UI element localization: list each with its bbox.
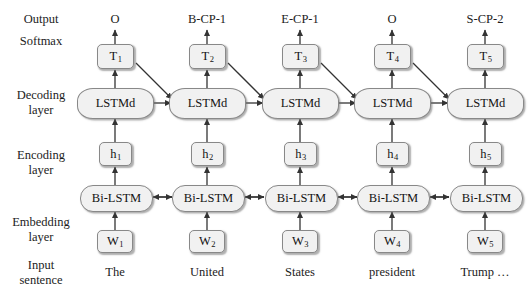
encoder-node-3-label: Bi-LSTM: [277, 191, 326, 206]
row-label-encoding-line1: Encoding: [0, 148, 82, 163]
hidden-state-node-3[interactable]: h3: [284, 142, 317, 166]
softmax-node-1[interactable]: T1: [97, 44, 134, 69]
row-label-output: Output: [0, 12, 82, 27]
hidden-state-node-4[interactable]: h4: [376, 142, 409, 166]
encoder-node-5[interactable]: Bi-LSTM: [450, 185, 523, 212]
figure-canvas: Output Softmax Decoding layer Encoding l…: [0, 0, 530, 301]
row-label-decoding-layer: Decoding layer: [0, 88, 82, 118]
hidden-state-node-3-sub: 3: [302, 152, 306, 162]
row-label-encoding-line2: layer: [0, 163, 82, 178]
encoder-node-1-label: Bi-LSTM: [92, 191, 141, 206]
input-word-2: United: [167, 265, 247, 280]
hidden-state-node-5-label: h: [480, 147, 486, 162]
output-tag-2: B-CP-1: [167, 12, 247, 27]
row-label-softmax: Softmax: [0, 34, 82, 49]
input-word-1: The: [75, 265, 155, 280]
embedding-node-1[interactable]: W1: [97, 230, 133, 253]
embedding-node-2-sub: 2: [211, 239, 215, 249]
hidden-state-node-1-label: h: [110, 147, 116, 162]
softmax-node-5-label: T: [480, 49, 488, 64]
output-tag-3: E-CP-1: [260, 12, 340, 27]
encoder-node-5-label: Bi-LSTM: [462, 191, 511, 206]
row-label-embedding-line2: layer: [0, 230, 82, 245]
row-label-softmax-line1: Softmax: [0, 34, 82, 49]
hidden-state-node-2-sub: 2: [209, 152, 213, 162]
hidden-state-node-4-label: h: [387, 147, 393, 162]
input-word-3: States: [260, 265, 340, 280]
hidden-state-node-2-label: h: [202, 147, 208, 162]
embedding-node-3[interactable]: W3: [282, 230, 318, 253]
hidden-state-node-3-label: h: [295, 147, 301, 162]
embedding-node-4-label: W: [384, 234, 396, 249]
decoder-node-1-label: LSTMd: [96, 96, 136, 111]
softmax-node-2-label: T: [202, 49, 210, 64]
softmax-node-3-sub: 3: [303, 54, 307, 64]
hidden-state-node-2[interactable]: h2: [191, 142, 224, 166]
embedding-node-5-sub: 5: [489, 239, 493, 249]
hidden-state-node-4-sub: 4: [394, 152, 398, 162]
decoder-node-4-label: LSTMd: [373, 96, 413, 111]
embedding-node-2[interactable]: W2: [189, 230, 225, 253]
encoder-node-1[interactable]: Bi-LSTM: [80, 185, 153, 212]
softmax-node-5[interactable]: T5: [467, 44, 504, 69]
decoder-node-1[interactable]: LSTMd: [77, 88, 154, 119]
softmax-node-4[interactable]: T4: [374, 44, 411, 69]
softmax-node-2[interactable]: T2: [189, 44, 226, 69]
embedding-node-4[interactable]: W4: [374, 230, 410, 253]
encoder-node-4-label: Bi-LSTM: [369, 191, 418, 206]
row-label-input-line1: Input: [0, 258, 82, 273]
row-label-decoding-line1: Decoding: [0, 88, 82, 103]
row-label-embedding-layer: Embedding layer: [0, 215, 82, 245]
input-word-5: Trump …: [445, 265, 525, 280]
decoder-node-5-label: LSTMd: [466, 96, 506, 111]
input-word-4: president: [352, 265, 432, 280]
embedding-node-1-label: W: [107, 234, 119, 249]
softmax-node-4-label: T: [387, 49, 395, 64]
decoder-node-4[interactable]: LSTMd: [354, 88, 431, 119]
row-label-input-sentence: Input sentence: [0, 258, 82, 288]
embedding-node-5-label: W: [477, 234, 489, 249]
embedding-node-5[interactable]: W5: [467, 230, 503, 253]
output-tag-4: O: [352, 12, 432, 27]
embedding-node-1-sub: 1: [119, 239, 123, 249]
embedding-node-3-sub: 3: [304, 239, 308, 249]
row-label-input-line2: sentence: [0, 273, 82, 288]
encoder-node-2-label: Bi-LSTM: [184, 191, 233, 206]
softmax-node-3-label: T: [295, 49, 303, 64]
softmax-node-1-sub: 1: [118, 54, 122, 64]
softmax-node-2-sub: 2: [210, 54, 214, 64]
encoder-node-2[interactable]: Bi-LSTM: [172, 185, 245, 212]
decoder-node-3[interactable]: LSTMd: [262, 88, 339, 119]
embedding-node-2-label: W: [199, 234, 211, 249]
row-label-output-line1: Output: [0, 12, 82, 27]
hidden-state-node-5[interactable]: h5: [469, 142, 502, 166]
encoder-node-3[interactable]: Bi-LSTM: [265, 185, 338, 212]
decoder-node-2[interactable]: LSTMd: [169, 88, 246, 119]
row-label-encoding-layer: Encoding layer: [0, 148, 82, 178]
decoder-node-3-label: LSTMd: [281, 96, 321, 111]
encoder-node-4[interactable]: Bi-LSTM: [357, 185, 430, 212]
softmax-node-1-label: T: [110, 49, 118, 64]
decoder-node-5[interactable]: LSTMd: [447, 88, 524, 119]
softmax-node-3[interactable]: T3: [282, 44, 319, 69]
hidden-state-node-5-sub: 5: [487, 152, 491, 162]
embedding-node-3-label: W: [292, 234, 304, 249]
softmax-node-5-sub: 5: [488, 54, 492, 64]
decoder-node-2-label: LSTMd: [188, 96, 228, 111]
row-label-embedding-line1: Embedding: [0, 215, 82, 230]
hidden-state-node-1-sub: 1: [117, 152, 121, 162]
hidden-state-node-1[interactable]: h1: [99, 142, 132, 166]
softmax-node-4-sub: 4: [395, 54, 399, 64]
output-tag-5: S-CP-2: [445, 12, 525, 27]
output-tag-1: O: [75, 12, 155, 27]
row-label-decoding-line2: layer: [0, 103, 82, 118]
embedding-node-4-sub: 4: [396, 239, 400, 249]
